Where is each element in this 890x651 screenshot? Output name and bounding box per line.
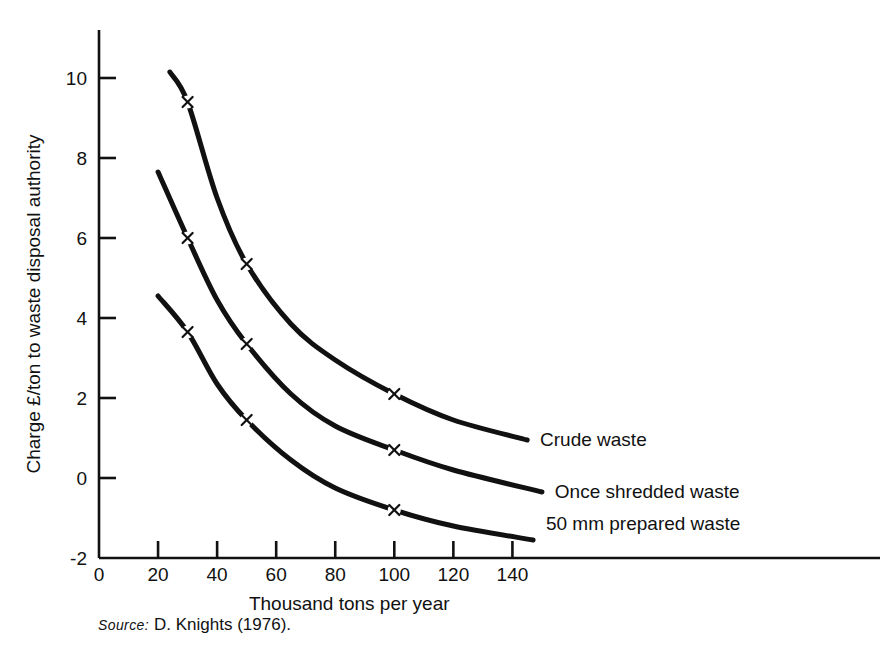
x-tick-label: 120 [438,564,470,585]
y-tick-label: 10 [66,68,87,89]
x-axis-title: Thousand tons per year [249,593,450,614]
source-label: Source: [98,617,149,633]
x-tick-label: 20 [147,564,168,585]
y-axis-title: Charge £/ton to waste disposal authority [23,134,44,474]
y-tick-label: 8 [76,148,87,169]
series-curve [170,72,527,440]
x-tick-label: 140 [497,564,529,585]
series-labels-group: Crude wasteOnce shredded waste50 mm prep… [540,429,740,534]
data-markers-group [181,96,401,517]
source-citation: D. Knights (1976). [154,615,291,634]
series-label-1: Crude waste [540,429,647,450]
chart-canvas: 020406080100120140 -20246810 Crude waste… [0,0,890,651]
y-tick-label: 6 [76,228,87,249]
data-series-group [158,72,542,540]
series-label-2: Once shredded waste [555,481,740,502]
series-label-3: 50 mm prepared waste [546,513,740,534]
series-curve [158,172,542,492]
x-tick-label: 0 [94,564,105,585]
figure-container: 020406080100120140 -20246810 Crude waste… [0,0,890,651]
y-tick-label: -2 [70,548,87,569]
series-curve [158,296,533,540]
x-axis-ticks: 020406080100120140 [94,541,529,585]
x-tick-label: 40 [207,564,228,585]
x-tick-label: 100 [378,564,410,585]
source-caption: Source:D. Knights (1976). [98,615,291,635]
y-tick-label: 0 [76,468,87,489]
y-tick-label: 2 [76,388,87,409]
y-axis-ticks: -20246810 [66,68,116,569]
x-tick-label: 60 [266,564,287,585]
y-tick-label: 4 [76,308,87,329]
x-tick-label: 80 [325,564,346,585]
axis-titles-group: Thousand tons per yearCharge £/ton to wa… [23,134,450,614]
